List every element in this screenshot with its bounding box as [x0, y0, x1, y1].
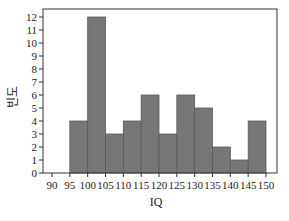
y-axis-ticks: 0123456789101112: [26, 11, 43, 179]
y-tick-label: 1: [32, 154, 38, 166]
x-tick-label: 120: [151, 179, 168, 191]
histogram-bar: [141, 95, 159, 173]
x-tick-label: 110: [115, 179, 132, 191]
x-tick-label: 105: [97, 179, 114, 191]
y-tick-label: 9: [32, 50, 38, 62]
histogram-bar: [159, 134, 177, 173]
histogram-bar: [123, 121, 141, 173]
y-tick-label: 3: [32, 128, 38, 140]
y-tick-label: 2: [32, 141, 38, 153]
x-tick-label: 135: [204, 179, 221, 191]
y-tick-label: 12: [26, 11, 37, 23]
histogram-bar: [88, 17, 106, 173]
x-tick-label: 100: [79, 179, 96, 191]
histogram-chart: 0123456789101112 90951001051101151201251…: [0, 0, 289, 221]
x-tick-label: 115: [133, 179, 150, 191]
histogram-bars: [70, 17, 266, 173]
y-tick-label: 8: [32, 63, 38, 75]
histogram-bar: [70, 121, 88, 173]
x-tick-label: 125: [169, 179, 186, 191]
x-tick-label: 95: [64, 179, 76, 191]
y-tick-label: 7: [32, 76, 38, 88]
y-tick-label: 10: [26, 37, 38, 49]
histogram-bar: [177, 95, 195, 173]
x-tick-label: 90: [47, 179, 59, 191]
histogram-bar: [248, 121, 266, 173]
histogram-bar: [106, 134, 124, 173]
x-tick-label: 130: [186, 179, 203, 191]
y-tick-label: 11: [26, 24, 37, 36]
y-tick-label: 4: [32, 115, 38, 127]
x-axis-ticks: 9095100105110115120125130135140145150: [47, 173, 275, 191]
histogram-bar: [195, 108, 213, 173]
x-axis-label: IQ: [150, 195, 163, 209]
x-tick-label: 145: [240, 179, 257, 191]
y-tick-label: 6: [32, 89, 38, 101]
y-tick-label: 5: [32, 102, 38, 114]
x-tick-label: 140: [222, 179, 239, 191]
y-axis-label: 빈도: [6, 86, 20, 108]
y-tick-label: 0: [32, 167, 38, 179]
histogram-bar: [230, 160, 248, 173]
x-tick-label: 150: [258, 179, 275, 191]
histogram-bar: [213, 147, 231, 173]
